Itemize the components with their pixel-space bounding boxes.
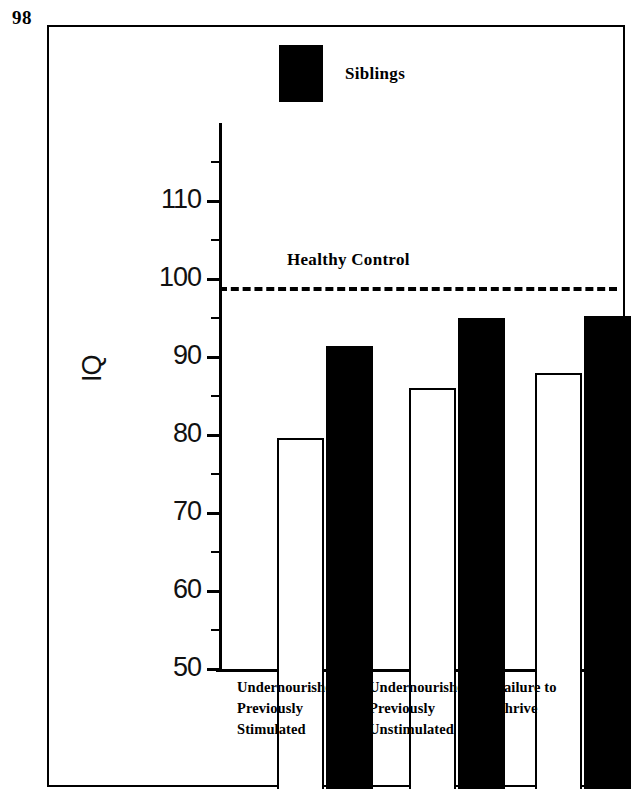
healthy-control-reference-line [219, 287, 617, 291]
y-tick-major-110 [207, 200, 222, 203]
category-label-0: Undernourished Previously Stimulated [237, 677, 340, 740]
healthy-control-label: Healthy Control [287, 250, 410, 270]
category-label-1: Undernourished Previously Unstimulated [369, 677, 472, 740]
y-axis-tick-labels: 110 100 90 80 70 60 50 [121, 27, 201, 789]
y-tick-label-70: 70 [127, 498, 201, 525]
y-tick-major-50 [207, 668, 222, 671]
y-tick-major-70 [207, 512, 222, 515]
x-axis-category-labels: Undernourished Previously Stimulated Und… [49, 677, 627, 787]
category-label-2: Failure to Thrive [495, 677, 557, 719]
y-tick-major-80 [207, 434, 222, 437]
y-tick-minor-75 [211, 473, 222, 475]
y-tick-label-100: 100 [127, 264, 201, 291]
y-axis-spine [219, 123, 222, 671]
chart-plot-area: Siblings 110 100 90 80 70 60 50 IQ Healt… [49, 27, 627, 789]
y-tick-minor-115 [211, 161, 222, 163]
y-tick-label-110: 110 [127, 186, 201, 213]
y-tick-minor-85 [211, 395, 222, 397]
y-tick-major-100 [207, 278, 222, 281]
y-tick-minor-95 [211, 317, 222, 319]
chart-legend: Siblings [279, 45, 405, 102]
figure-frame: Siblings 110 100 90 80 70 60 50 IQ Healt… [47, 25, 625, 787]
y-tick-minor-65 [211, 551, 222, 553]
page-number: 98 [12, 8, 32, 27]
y-tick-major-90 [207, 356, 222, 359]
legend-label-siblings: Siblings [345, 64, 405, 84]
y-tick-minor-105 [211, 239, 222, 241]
y-tick-major-60 [207, 590, 222, 593]
y-axis-title: IQ [77, 355, 108, 382]
y-tick-minor-55 [211, 629, 222, 631]
legend-swatch-siblings [279, 45, 323, 102]
y-tick-label-60: 60 [127, 576, 201, 603]
y-tick-label-90: 90 [127, 342, 201, 369]
y-tick-label-80: 80 [127, 420, 201, 447]
